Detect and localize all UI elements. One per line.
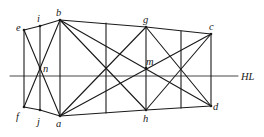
point-d-marker	[210, 105, 213, 108]
edge-b-g	[60, 20, 146, 27]
point-label-c: c	[209, 21, 214, 32]
point-j-marker	[39, 109, 42, 112]
point-label-d: d	[213, 101, 219, 112]
point-label-j: j	[35, 116, 40, 127]
edge-a-c	[60, 34, 211, 116]
edge-g-c	[146, 27, 211, 34]
point-label-e: e	[16, 22, 21, 33]
horizon-line-label: HL	[240, 71, 255, 82]
point-e-marker	[23, 29, 26, 32]
edges-group	[24, 20, 211, 116]
point-label-a: a	[56, 118, 61, 129]
point-label-h: h	[143, 113, 148, 124]
point-a-marker	[59, 115, 62, 118]
point-n-marker	[39, 67, 42, 70]
edge-h-c	[146, 34, 211, 110]
point-f-marker	[23, 106, 26, 109]
edge-e-a	[24, 30, 60, 116]
point-m-marker	[145, 67, 148, 70]
perspective-diagram: HL eibgcnmfjahd	[0, 0, 264, 137]
point-b-marker	[59, 19, 62, 22]
point-label-m: m	[146, 56, 154, 67]
edge-a-h	[60, 110, 146, 116]
edge-f-j	[24, 107, 40, 110]
point-label-f: f	[16, 111, 21, 122]
point-g-marker	[145, 26, 148, 29]
point-label-b: b	[56, 7, 61, 18]
edge-i-b	[40, 20, 60, 26]
point-label-n: n	[43, 63, 48, 74]
edge-h-d	[146, 106, 211, 110]
point-label-i: i	[37, 13, 40, 24]
edge-a-g	[60, 27, 146, 116]
point-c-marker	[210, 33, 213, 36]
edge-e-i	[24, 26, 40, 30]
edge-j-a	[40, 110, 60, 116]
edge-b-h	[60, 20, 146, 110]
diagram-svg: HL eibgcnmfjahd	[0, 0, 264, 137]
point-labels-group: eibgcnmfjahd	[16, 7, 219, 129]
point-h-marker	[145, 109, 148, 112]
point-label-g: g	[143, 14, 148, 25]
edge-f-b	[24, 20, 60, 107]
point-i-marker	[39, 25, 42, 28]
